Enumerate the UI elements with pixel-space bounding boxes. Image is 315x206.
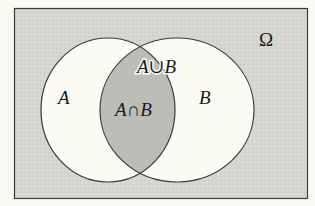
universe-label: Ω — [259, 29, 273, 50]
set-a-label: A — [56, 87, 70, 108]
intersection-label: A∩B — [113, 99, 152, 120]
union-label: A∪B — [135, 56, 177, 77]
set-b-label: B — [199, 87, 211, 108]
venn-diagram: A B A∩B A∪B Ω — [0, 0, 315, 206]
